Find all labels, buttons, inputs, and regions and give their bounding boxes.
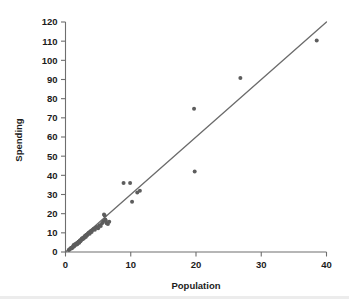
x-tick-label: 0 bbox=[63, 259, 68, 270]
y-tick-label: 50 bbox=[47, 151, 58, 162]
y-tick-label: 20 bbox=[47, 208, 58, 219]
x-tick-label: 20 bbox=[191, 259, 202, 270]
plot-canvas: 0102030405060708090100110120 010203040 S… bbox=[0, 0, 349, 305]
y-tick-label: 10 bbox=[47, 227, 58, 238]
data-point bbox=[238, 76, 242, 80]
data-point bbox=[103, 214, 107, 218]
y-axis-title: Spending bbox=[13, 118, 24, 161]
y-tick-label: 120 bbox=[42, 16, 58, 27]
y-tick-label: 30 bbox=[47, 189, 58, 200]
data-point bbox=[138, 189, 142, 193]
data-point bbox=[130, 200, 134, 204]
data-point bbox=[315, 38, 319, 42]
x-tick-label: 30 bbox=[256, 259, 267, 270]
data-point bbox=[107, 220, 111, 224]
y-tick-label: 60 bbox=[47, 131, 58, 142]
x-axis-group: 010203040 bbox=[63, 252, 332, 270]
data-point bbox=[193, 170, 197, 174]
scatter-chart: 0102030405060708090100110120 010203040 S… bbox=[0, 0, 349, 305]
data-point bbox=[122, 181, 126, 185]
y-tick-label: 80 bbox=[47, 93, 58, 104]
bottom-divider bbox=[0, 296, 349, 299]
data-point bbox=[192, 107, 196, 111]
y-tick-label: 70 bbox=[47, 112, 58, 123]
data-points-group bbox=[67, 38, 319, 252]
x-axis-title: Population bbox=[171, 280, 220, 291]
data-point bbox=[128, 181, 132, 185]
y-tick-label: 100 bbox=[42, 55, 58, 66]
y-axis-group: 0102030405060708090100110120 bbox=[42, 16, 66, 257]
y-tick-label: 90 bbox=[47, 74, 58, 85]
y-tick-label: 110 bbox=[42, 36, 57, 47]
x-tick-label: 10 bbox=[125, 259, 136, 270]
y-tick-label: 40 bbox=[47, 170, 58, 181]
x-tick-label: 40 bbox=[321, 259, 332, 270]
y-tick-label: 0 bbox=[52, 246, 57, 257]
